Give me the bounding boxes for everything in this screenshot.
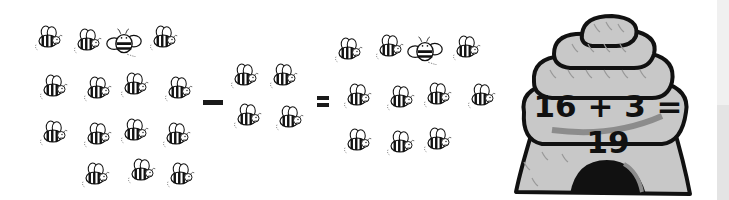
bee-icon (342, 83, 372, 109)
bee-icon (82, 76, 112, 102)
bee-icon (163, 76, 193, 102)
bee-icon (374, 34, 404, 60)
bee-icon (126, 158, 156, 184)
bee-icon (106, 27, 142, 57)
equation-text: 16 + 3 = 19 (518, 88, 698, 160)
bee-icon (268, 63, 298, 89)
bee-icon (422, 127, 452, 153)
bee-icon (165, 162, 195, 188)
bee-icon (161, 122, 191, 148)
bee-icon (407, 35, 443, 65)
bee-icon (342, 128, 372, 154)
bee-icon (229, 63, 259, 89)
bee-icon (80, 162, 110, 188)
bee-icon (82, 122, 112, 148)
bee-icon (422, 82, 452, 108)
minus-sign (203, 100, 223, 105)
side-panel-top (717, 0, 729, 105)
bee-icon (333, 37, 363, 63)
bee-icon (385, 130, 415, 156)
side-panel-bottom (717, 105, 729, 200)
bee-icon (72, 28, 102, 54)
bee-icon (385, 85, 415, 111)
bee-icon (274, 105, 304, 131)
bee-icon (148, 25, 178, 51)
bee-icon (119, 72, 149, 98)
bee-icon (232, 103, 262, 129)
bee-icon (38, 120, 68, 146)
bee-icon (38, 74, 68, 100)
bee-icon (119, 118, 149, 144)
bee-icon (33, 25, 63, 51)
bee-icon (466, 83, 496, 109)
bee-icon (451, 35, 481, 61)
